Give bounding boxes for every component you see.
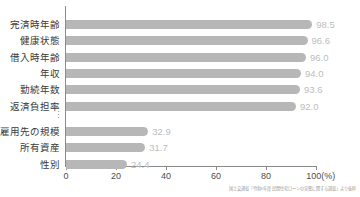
bar-value-label: 31.7 bbox=[149, 141, 168, 154]
source-caption: 国土交通省「令和5年度 民間住宅ローンの実態に関する調査」より抜粋 bbox=[0, 186, 356, 192]
bar bbox=[66, 53, 306, 62]
category-label: 雇用先の規模 bbox=[0, 125, 60, 138]
category-label: 健康状態 bbox=[0, 34, 60, 47]
bar-row: 健康状態96.6 bbox=[0, 34, 360, 47]
horizontal-bar-chart: 020406080100(%) 完済時年齢98.5健康状態96.6借入時年齢96… bbox=[0, 0, 360, 197]
x-tick-label: 60 bbox=[211, 171, 221, 181]
x-tick-label: 40 bbox=[161, 171, 171, 181]
category-label: 性別 bbox=[0, 158, 60, 171]
category-label: 勤続年数 bbox=[0, 83, 60, 96]
x-tick-label: 20 bbox=[111, 171, 121, 181]
bar-row: 完済時年齢98.5 bbox=[0, 18, 360, 31]
x-tick-label: 100(%) bbox=[306, 171, 335, 181]
bar bbox=[66, 160, 127, 169]
bar bbox=[66, 102, 296, 111]
bar-row: 借入時年齢96.0 bbox=[0, 51, 360, 64]
bar-value-label: 92.0 bbox=[300, 100, 319, 113]
bar bbox=[66, 143, 145, 152]
category-label: 年収 bbox=[0, 67, 60, 80]
bar bbox=[66, 85, 300, 94]
category-label: 借入時年齢 bbox=[0, 51, 60, 64]
axis-break-ellipsis: ··· bbox=[0, 110, 68, 119]
category-label: 所有資産 bbox=[0, 141, 60, 154]
bar-value-label: 96.0 bbox=[310, 51, 329, 64]
bar-value-label: 24.4 bbox=[131, 158, 150, 171]
bar-row: 雇用先の規模32.9 bbox=[0, 125, 360, 138]
bar-row: 勤続年数93.6 bbox=[0, 83, 360, 96]
x-tick-label: 0 bbox=[63, 171, 68, 181]
bar bbox=[66, 36, 308, 45]
bar-row: 所有資産31.7 bbox=[0, 141, 360, 154]
bar bbox=[66, 20, 312, 29]
bar-value-label: 94.0 bbox=[305, 67, 324, 80]
x-tick-label: 80 bbox=[261, 171, 271, 181]
bar bbox=[66, 69, 301, 78]
bar-value-label: 32.9 bbox=[152, 125, 171, 138]
bar-value-label: 98.5 bbox=[316, 18, 335, 31]
bar-row: 性別24.4 bbox=[0, 158, 360, 171]
bar-value-label: 93.6 bbox=[304, 83, 323, 96]
bar-value-label: 96.6 bbox=[312, 34, 331, 47]
bar-row: 年収94.0 bbox=[0, 67, 360, 80]
bar bbox=[66, 127, 148, 136]
category-label: 完済時年齢 bbox=[0, 18, 60, 31]
